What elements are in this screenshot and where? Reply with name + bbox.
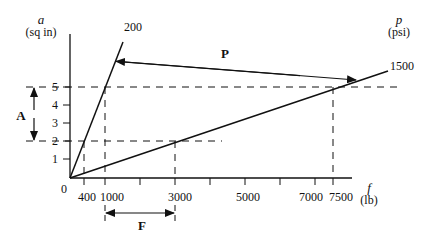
line-200-label: 200 bbox=[124, 20, 142, 34]
svg-text:1000: 1000 bbox=[100, 190, 124, 204]
line-1500-label: 1500 bbox=[390, 59, 414, 73]
x-axis-unit: (lb) bbox=[360, 193, 377, 207]
y-axis-unit: (sq in) bbox=[26, 25, 57, 39]
svg-text:2: 2 bbox=[52, 134, 58, 148]
p-unit: (psi) bbox=[388, 25, 410, 39]
svg-text:5000: 5000 bbox=[236, 190, 260, 204]
f-label: F bbox=[138, 218, 146, 233]
y-tick-labels: 5 4 3 2 1 bbox=[52, 80, 58, 166]
a-label: A bbox=[16, 108, 26, 123]
x-tick-labels: 0 400 1000 3000 5000 7000 7500 bbox=[61, 182, 353, 204]
svg-text:3000: 3000 bbox=[168, 190, 192, 204]
svg-text:400: 400 bbox=[78, 190, 96, 204]
reference-lines bbox=[26, 87, 398, 178]
svg-text:4: 4 bbox=[52, 98, 58, 112]
y-ticks bbox=[63, 87, 70, 159]
svg-text:1: 1 bbox=[52, 152, 58, 166]
svg-text:7500: 7500 bbox=[329, 190, 353, 204]
svg-text:0: 0 bbox=[61, 182, 67, 196]
x-ticks bbox=[84, 178, 333, 185]
svg-text:3: 3 bbox=[52, 116, 58, 130]
diagram: a (sq in) p (psi) 200 1500 P A F 5 4 3 2… bbox=[0, 0, 426, 238]
svg-text:7000: 7000 bbox=[299, 190, 323, 204]
svg-text:5: 5 bbox=[52, 80, 58, 94]
line-200-psi bbox=[70, 42, 123, 178]
p-label: P bbox=[221, 46, 229, 61]
